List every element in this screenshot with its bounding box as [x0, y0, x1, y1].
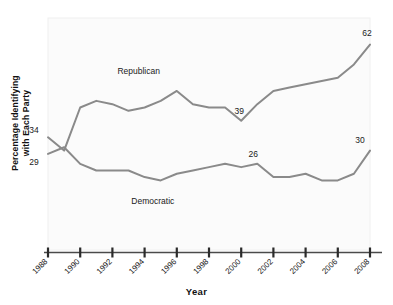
x-tick-label-2008: 2008	[352, 257, 371, 276]
x-tick-label-1988: 1988	[30, 257, 49, 276]
y-axis-title-line1: Percentage Identifying	[10, 58, 21, 188]
chart-container: 1988199019921994199619982000200220042006…	[0, 0, 393, 305]
x-tick-label-1998: 1998	[191, 257, 210, 276]
x-axis-title: Year	[0, 286, 393, 297]
republican-end-value: 62	[362, 28, 372, 38]
x-tick-label-2002: 2002	[256, 257, 275, 276]
democratic-end-value: 30	[355, 135, 365, 145]
y-axis-title: Percentage Identifying with Each Party	[10, 58, 32, 188]
x-tick-label-2000: 2000	[224, 257, 243, 276]
democratic-mid-value: 26	[249, 149, 259, 159]
plot-background	[48, 18, 370, 250]
x-tick-label-1992: 1992	[95, 257, 114, 276]
democratic-series-label: Democratic	[131, 196, 175, 206]
x-tick-label-2006: 2006	[320, 257, 339, 276]
x-tick-label-1990: 1990	[63, 257, 82, 276]
x-tick-label-1994: 1994	[127, 257, 146, 276]
republican-series-label: Republican	[117, 66, 160, 76]
republican-trough-value: 39	[234, 106, 244, 116]
party-identification-line-chart: 1988199019921994199619982000200220042006…	[0, 0, 393, 305]
y-axis-title-line2: with Each Party	[21, 58, 32, 188]
x-tick-label-1996: 1996	[159, 257, 178, 276]
x-tick-label-2004: 2004	[288, 257, 307, 276]
x-axis-tick-labels: 1988199019921994199619982000200220042006…	[30, 257, 371, 276]
